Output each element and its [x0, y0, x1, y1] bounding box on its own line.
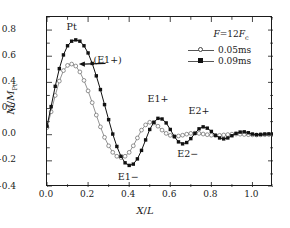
legend-label-1: 0.09ms — [218, 56, 251, 66]
chart-annotation: Pt — [67, 22, 77, 31]
chart-annotation: E2+ — [189, 106, 210, 115]
legend-item-1[interactable]: 0.09ms — [188, 56, 274, 67]
x-axis-label-den: L — [147, 205, 154, 216]
y-axis-label: M/MPt — [5, 59, 19, 139]
x-tick-label: 0.6 — [149, 190, 189, 199]
legend-item-0[interactable]: 0.05ms — [188, 45, 274, 56]
chart-annotation: E2− — [177, 149, 198, 158]
x-tick-label: 0.4 — [108, 190, 148, 199]
y-tick-label: 0.8 — [0, 25, 16, 34]
chart-annotation: E1+ — [147, 94, 168, 103]
x-tick-label: 0.8 — [190, 190, 230, 199]
chart-annotation: (E1+) — [93, 55, 121, 64]
x-tick-label: 0.0 — [26, 190, 66, 199]
legend-label-0: 0.05ms — [218, 45, 251, 55]
legend: F=12Fc 0.05ms 0.09ms — [182, 29, 274, 67]
x-tick-label: 0.2 — [67, 190, 107, 199]
y-tick-label: −0.4 — [0, 182, 16, 191]
legend-swatch-open-circle — [188, 46, 214, 55]
y-axis-label-sub: Pt — [11, 84, 19, 91]
x-axis-label: X/L — [0, 205, 290, 216]
x-axis-label-num: X — [136, 205, 143, 216]
y-axis-label-num: M — [5, 104, 16, 114]
y-tick-label: −0.2 — [0, 155, 16, 164]
legend-swatch-filled-square — [188, 57, 214, 66]
x-tick-label: 1.0 — [231, 190, 271, 199]
y-axis-label-den: M — [5, 91, 16, 101]
chart-annotation: E1− — [118, 172, 139, 181]
legend-title: F=12Fc — [188, 29, 274, 42]
figure-root: 0.80.60.40.20.0−0.2−0.4 0.00.20.40.60.81… — [0, 0, 290, 228]
